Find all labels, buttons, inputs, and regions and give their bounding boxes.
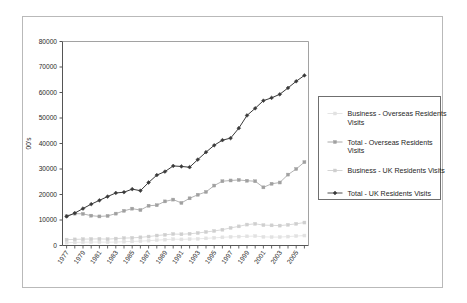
y-tick-label: 80000 <box>39 38 58 45</box>
data-point-marker <box>147 235 150 238</box>
x-tick-label: 2001 <box>253 249 267 265</box>
data-point-marker <box>270 182 273 185</box>
data-point-marker <box>131 240 134 243</box>
data-point-marker <box>82 212 85 215</box>
data-point-marker <box>287 223 290 226</box>
y-tick-label: 70000 <box>39 63 58 70</box>
data-point-marker <box>237 225 240 228</box>
data-point-marker <box>246 223 249 226</box>
data-point-marker <box>164 200 167 203</box>
y-tick-label: 0 <box>53 242 57 249</box>
data-point-marker <box>254 235 257 238</box>
data-point-marker <box>180 233 183 236</box>
data-point-marker <box>254 222 257 225</box>
data-point-marker <box>89 202 93 206</box>
x-tick-label: 1977 <box>56 249 70 265</box>
data-point-marker <box>270 96 274 100</box>
series-line <box>67 75 305 216</box>
data-point-marker <box>164 233 167 236</box>
data-point-marker <box>254 180 257 183</box>
data-point-marker <box>270 224 273 227</box>
data-point-marker <box>155 204 158 207</box>
data-point-marker <box>334 141 337 144</box>
x-tick-label: 1987 <box>138 249 152 265</box>
data-point-marker <box>98 198 102 202</box>
data-point-marker <box>229 179 232 182</box>
data-point-marker <box>90 237 93 240</box>
y-tick-label: 30000 <box>39 165 58 172</box>
data-point-marker <box>221 236 224 239</box>
series-line <box>67 162 305 216</box>
data-point-marker <box>114 237 117 240</box>
data-point-marker <box>123 237 126 240</box>
data-point-marker <box>334 169 337 172</box>
data-point-marker <box>172 238 175 241</box>
data-point-marker <box>81 207 85 211</box>
data-point-marker <box>139 209 142 212</box>
data-point-marker <box>180 238 183 241</box>
data-point-marker <box>82 238 85 241</box>
data-point-marker <box>237 178 240 181</box>
legend-entry-label: Business - Overseas Residents <box>348 110 447 118</box>
legend-entry-label: Visits <box>348 147 365 155</box>
data-point-marker <box>106 195 110 199</box>
data-point-marker <box>278 224 281 227</box>
data-point-marker <box>65 241 68 244</box>
data-point-marker <box>295 235 298 238</box>
data-point-marker <box>106 214 109 217</box>
data-point-marker <box>213 184 216 187</box>
x-tick-label: 1981 <box>89 249 103 265</box>
data-point-marker <box>287 235 290 238</box>
data-point-marker <box>180 201 183 204</box>
data-point-marker <box>147 239 150 242</box>
data-point-marker <box>262 224 265 227</box>
legend-entry-label: Total - UK Residents Visits <box>348 190 432 198</box>
data-point-marker <box>205 190 208 193</box>
y-tick-label: 50000 <box>39 114 58 121</box>
data-point-marker <box>213 236 216 239</box>
data-point-marker <box>147 204 150 207</box>
data-point-marker <box>90 241 93 244</box>
legend-entry-label: Business - UK Residents Visits <box>348 167 446 175</box>
y-tick-label: 20000 <box>39 191 58 198</box>
y-tick-label: 10000 <box>39 216 58 223</box>
series-2 <box>65 161 306 218</box>
data-point-marker <box>262 235 265 238</box>
data-point-marker <box>164 238 167 241</box>
data-point-marker <box>73 238 76 241</box>
data-point-marker <box>180 165 184 169</box>
data-point-marker <box>196 193 199 196</box>
data-point-marker <box>262 186 265 189</box>
data-point-marker <box>155 234 158 237</box>
data-point-marker <box>114 241 117 244</box>
data-point-marker <box>278 236 281 239</box>
data-point-marker <box>122 190 126 194</box>
data-point-marker <box>172 198 175 201</box>
data-point-marker <box>213 229 216 232</box>
data-point-marker <box>237 235 240 238</box>
x-tick-label: 2003 <box>269 249 283 265</box>
data-point-marker <box>123 240 126 243</box>
data-point-marker <box>155 239 158 242</box>
x-tick-label: 1989 <box>154 249 168 265</box>
y-axis-title: 00's <box>25 137 32 150</box>
data-point-marker <box>196 237 199 240</box>
data-point-marker <box>139 236 142 239</box>
data-point-marker <box>106 241 109 244</box>
data-point-marker <box>98 241 101 244</box>
x-tick-label: 1993 <box>187 249 201 265</box>
data-point-marker <box>123 209 126 212</box>
data-point-marker <box>98 237 101 240</box>
data-point-marker <box>221 228 224 231</box>
data-point-marker <box>205 237 208 240</box>
data-point-marker <box>82 241 85 244</box>
data-point-marker <box>114 212 117 215</box>
data-point-marker <box>221 180 224 183</box>
data-point-marker <box>131 207 134 210</box>
data-point-marker <box>196 232 199 235</box>
data-point-marker <box>303 161 306 164</box>
data-point-marker <box>295 168 298 171</box>
legend-entry-label: Total - Overseas Residents <box>348 139 434 147</box>
x-tick-label: 2005 <box>285 249 299 265</box>
data-point-marker <box>90 214 93 217</box>
